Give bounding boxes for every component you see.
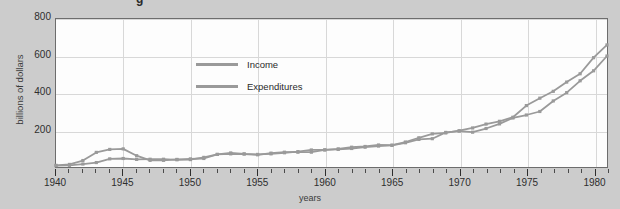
data-point-marker bbox=[592, 56, 595, 59]
legend: Income Expenditures bbox=[196, 57, 302, 101]
data-point-marker bbox=[471, 131, 474, 134]
x-tick-major bbox=[595, 169, 596, 176]
data-point-marker bbox=[605, 54, 608, 57]
data-point-marker bbox=[484, 123, 487, 126]
data-point-marker bbox=[525, 113, 528, 116]
data-point-marker bbox=[256, 153, 259, 156]
data-point-marker bbox=[202, 157, 205, 160]
data-point-marker bbox=[243, 152, 246, 155]
data-series-lines bbox=[56, 19, 607, 167]
x-tick-major bbox=[460, 169, 461, 176]
data-point-marker bbox=[552, 90, 555, 93]
data-point-marker bbox=[377, 143, 380, 146]
data-point-marker bbox=[95, 151, 98, 154]
x-tick-minor bbox=[581, 169, 582, 173]
data-point-marker bbox=[162, 159, 165, 162]
x-tick-minor bbox=[338, 169, 339, 173]
x-tick-major bbox=[257, 169, 258, 176]
y-tick-label: 600 bbox=[17, 49, 51, 60]
title-fragment: g bbox=[136, 0, 143, 6]
x-tick-minor bbox=[311, 169, 312, 173]
x-tick-label: 1980 bbox=[583, 177, 605, 188]
x-tick-minor bbox=[365, 169, 366, 173]
data-point-marker bbox=[269, 152, 272, 155]
x-tick-minor bbox=[298, 169, 299, 173]
chart-figure: g billions of dollars 200400600800 Incom… bbox=[0, 0, 620, 209]
x-tick-minor bbox=[149, 169, 150, 173]
x-tick-major bbox=[190, 169, 191, 176]
x-tick-minor bbox=[136, 169, 137, 173]
data-point-marker bbox=[350, 146, 353, 149]
data-point-marker bbox=[565, 81, 568, 84]
legend-label-income: Income bbox=[247, 59, 278, 70]
data-point-marker bbox=[323, 148, 326, 151]
data-point-marker bbox=[364, 145, 367, 148]
data-point-marker bbox=[525, 104, 528, 107]
plot-area: Income Expenditures bbox=[55, 18, 608, 168]
x-tick-minor bbox=[82, 169, 83, 173]
x-tick-major bbox=[122, 169, 123, 176]
data-point-marker bbox=[81, 162, 84, 165]
x-tick-minor bbox=[163, 169, 164, 173]
x-tick-minor bbox=[500, 169, 501, 173]
data-point-marker bbox=[135, 154, 138, 157]
data-point-marker bbox=[189, 157, 192, 160]
data-point-marker bbox=[283, 151, 286, 154]
data-point-marker bbox=[579, 79, 582, 82]
data-point-marker bbox=[565, 91, 568, 94]
data-point-marker bbox=[175, 158, 178, 161]
data-point-marker bbox=[404, 140, 407, 143]
x-tick-minor bbox=[446, 169, 447, 173]
data-point-marker bbox=[337, 147, 340, 150]
data-point-marker bbox=[122, 147, 125, 150]
data-point-marker bbox=[552, 99, 555, 102]
data-point-marker bbox=[229, 151, 232, 154]
x-tick-label: 1940 bbox=[44, 177, 66, 188]
x-tick-minor bbox=[271, 169, 272, 173]
data-point-marker bbox=[417, 136, 420, 139]
x-tick-minor bbox=[68, 169, 69, 173]
data-point-marker bbox=[538, 110, 541, 113]
y-tick-label: 400 bbox=[17, 86, 51, 97]
x-tick-minor bbox=[95, 169, 96, 173]
legend-item-expenditures: Expenditures bbox=[196, 79, 302, 94]
data-point-marker bbox=[122, 157, 125, 160]
legend-swatch-expenditures bbox=[196, 85, 238, 88]
data-point-marker bbox=[108, 157, 111, 160]
data-point-marker bbox=[81, 159, 84, 162]
x-axis-ticks: 194019451950195519601965197019751980 bbox=[55, 169, 608, 191]
x-tick-minor bbox=[487, 169, 488, 173]
x-tick-minor bbox=[554, 169, 555, 173]
x-tick-minor bbox=[514, 169, 515, 173]
x-tick-minor bbox=[541, 169, 542, 173]
x-tick-minor bbox=[244, 169, 245, 173]
x-tick-major bbox=[392, 169, 393, 176]
legend-item-income: Income bbox=[196, 57, 302, 72]
x-tick-minor bbox=[608, 169, 609, 173]
data-point-marker bbox=[431, 132, 434, 135]
data-point-marker bbox=[458, 129, 461, 132]
x-tick-label: 1955 bbox=[246, 177, 268, 188]
data-point-marker bbox=[148, 159, 151, 162]
x-tick-minor bbox=[284, 169, 285, 173]
x-tick-minor bbox=[568, 169, 569, 173]
x-tick-minor bbox=[176, 169, 177, 173]
data-point-marker bbox=[68, 163, 71, 166]
data-point-marker bbox=[592, 69, 595, 72]
x-tick-minor bbox=[203, 169, 204, 173]
x-tick-minor bbox=[419, 169, 420, 173]
x-tick-minor bbox=[109, 169, 110, 173]
x-tick-label: 1975 bbox=[516, 177, 538, 188]
x-tick-minor bbox=[406, 169, 407, 173]
series-line-expenditures bbox=[56, 45, 607, 165]
data-point-marker bbox=[54, 164, 57, 167]
x-tick-label: 1960 bbox=[314, 177, 336, 188]
data-point-marker bbox=[296, 150, 299, 153]
data-point-marker bbox=[579, 72, 582, 75]
x-tick-minor bbox=[217, 169, 218, 173]
y-tick-label: 800 bbox=[17, 11, 51, 22]
data-point-marker bbox=[216, 153, 219, 156]
data-point-marker bbox=[498, 120, 501, 123]
data-point-marker bbox=[484, 127, 487, 130]
x-tick-minor bbox=[433, 169, 434, 173]
